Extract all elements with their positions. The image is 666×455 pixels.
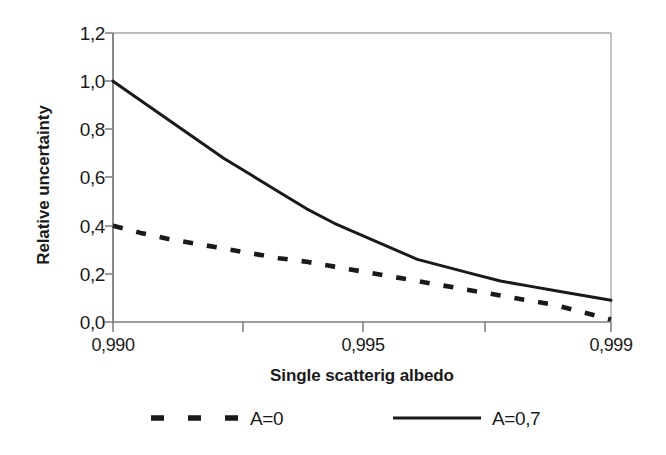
x-tick-label: 0,995: [318, 336, 408, 354]
x-axis-title: Single scatterig albedo: [113, 366, 611, 386]
plot-area: [0, 0, 666, 455]
x-tick-label: 0,999: [566, 336, 656, 354]
legend-entry-a-0: A=0: [149, 404, 283, 432]
x-tick-label: 0,990: [68, 336, 158, 354]
x-axis-ticks: [113, 322, 611, 332]
series-line-a-0-7: [113, 81, 611, 300]
y-axis-ticks: [105, 33, 113, 322]
legend-swatch-solid: [391, 412, 483, 424]
legend-label-a-0-7: A=0,7: [492, 409, 540, 428]
legend-label-a-0: A=0: [250, 409, 283, 428]
legend-entry-a-0-7: A=0,7: [391, 404, 540, 432]
chart-figure: Relative uncertainty 1,2 1,0 0,8 0,6 0,4…: [0, 0, 666, 455]
chart-legend: A=0 A=0,7: [113, 404, 611, 434]
legend-swatch-dashed: [149, 412, 241, 424]
series-line-a-0: [113, 226, 611, 320]
x-axis-tick-labels: 0,990 0,995 0,999: [0, 336, 666, 362]
